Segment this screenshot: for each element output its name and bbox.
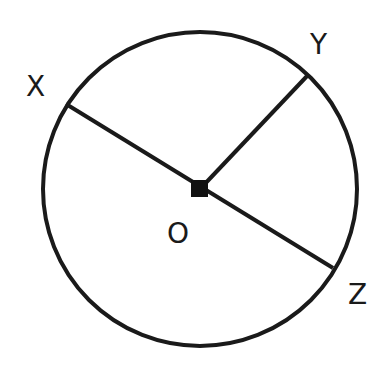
center-point: [191, 180, 208, 197]
radius-oy: [200, 75, 308, 189]
circle-diagram: X Y Z O: [0, 0, 384, 370]
label-z: Z: [348, 278, 367, 311]
label-o: O: [167, 217, 189, 250]
label-y: Y: [309, 28, 328, 61]
label-x: X: [26, 70, 45, 103]
